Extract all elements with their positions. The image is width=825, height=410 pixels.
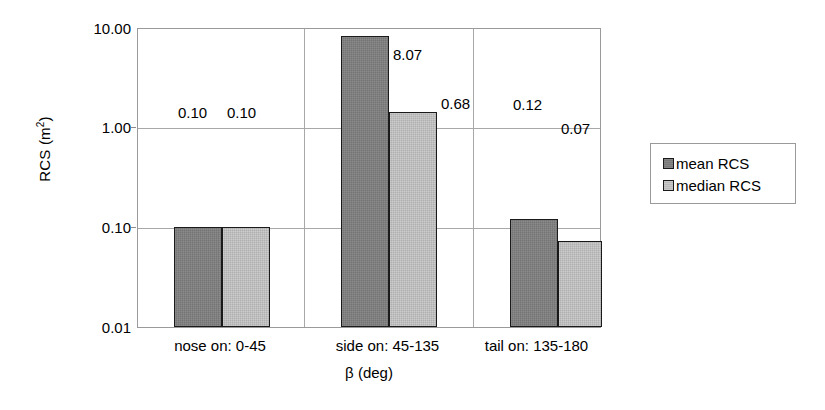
y-axis-title-exponent: 2 [35,121,46,127]
category-separator-2 [473,29,474,327]
y-tick-label-0-01: 0.01 [59,320,131,335]
y-tick-mark-1 [131,127,136,128]
category-separator-1 [304,29,305,327]
legend-item-median-rcs: median RCS [663,174,795,196]
bar-mean-side-on [341,36,389,327]
legend-label-median-rcs: median RCS [676,177,761,194]
y-tick-label-0-10: 0.10 [59,220,131,235]
x-category-label-nose-on: nose on: 0-45 [137,337,303,354]
bar-mean-nose-on [174,227,222,327]
bar-median-side-on [389,112,437,327]
plot-area: 0.10 0.10 8.07 0.68 0.12 0.07 [137,28,601,328]
rcs-bar-chart: RCS (m2) 10.00 1.00 0.10 0.01 0.10 0.10 … [0,0,825,410]
x-category-label-side-on: side on: 45-135 [303,337,472,354]
bar-median-nose-on [222,227,270,327]
x-category-label-tail-on: tail on: 135-180 [472,337,601,354]
y-axis-title: RCS (m2) [35,89,53,209]
bar-label-median-nose-on: 0.10 [227,105,256,120]
legend: mean RCS median RCS [650,143,796,204]
y-tick-label-1: 1.00 [59,120,131,135]
y-axis-title-paren: ) [36,116,53,121]
legend-item-mean-rcs: mean RCS [663,152,795,174]
y-axis-tick-labels: 10.00 1.00 0.10 0.01 [55,0,131,410]
y-tick-mark-0-10 [131,227,136,228]
y-axis-title-text: RCS (m [36,127,53,182]
legend-swatch-median-icon [663,180,674,191]
y-tick-label-10: 10.00 [59,21,131,36]
bar-label-mean-nose-on: 0.10 [178,105,207,120]
bar-label-mean-tail-on: 0.12 [513,97,542,112]
bar-label-mean-side-on: 8.07 [393,47,422,62]
legend-swatch-mean-icon [663,158,674,169]
legend-label-mean-rcs: mean RCS [676,155,749,172]
x-axis-title: β (deg) [137,364,601,381]
bar-median-tail-on [558,241,602,327]
bar-label-median-side-on: 0.68 [441,96,470,111]
bar-label-median-tail-on: 0.07 [561,121,590,136]
bar-mean-tail-on [510,219,558,327]
